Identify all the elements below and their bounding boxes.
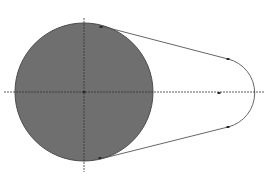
tangent-point-bottom-small-marker [227, 126, 230, 128]
tangent-point-top-small-marker [227, 58, 230, 60]
center-large-marker [83, 91, 86, 93]
diagram-canvas [0, 0, 267, 182]
tangent-point-top-large-marker [100, 26, 103, 28]
center-small-marker [218, 92, 221, 94]
pulley-tangent-diagram [0, 0, 267, 182]
tangent-point-bottom-large-marker [99, 157, 102, 159]
